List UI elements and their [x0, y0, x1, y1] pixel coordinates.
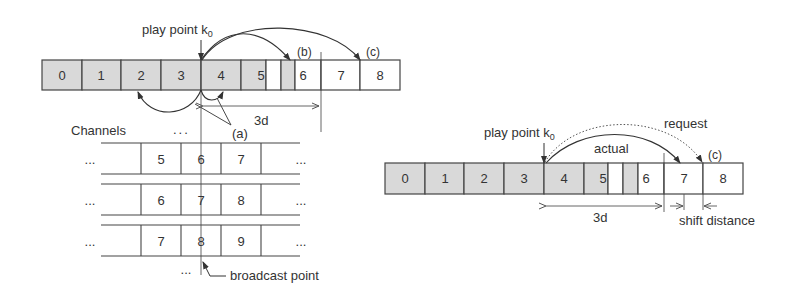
svg-text:5: 5 — [157, 152, 164, 167]
svg-text:2: 2 — [480, 171, 487, 186]
svg-text:3: 3 — [520, 171, 527, 186]
segment-6-partial — [281, 60, 295, 90]
label-a: (a) — [232, 126, 248, 141]
broadcast-point-label: broadcast point — [230, 268, 319, 283]
segment-gap — [266, 60, 281, 90]
arc-a-back — [138, 90, 201, 112]
svg-text:7: 7 — [237, 152, 244, 167]
svg-text:...: ... — [296, 152, 307, 167]
svg-text:8: 8 — [719, 171, 726, 186]
arc-c — [202, 28, 360, 60]
svg-text:6: 6 — [157, 193, 164, 208]
segment-gap — [608, 163, 623, 194]
svg-text:4: 4 — [560, 171, 567, 186]
svg-text:7: 7 — [197, 193, 204, 208]
segment-6-partial — [623, 163, 638, 194]
svg-text:6: 6 — [197, 152, 204, 167]
svg-text:...: ... — [181, 262, 192, 277]
right-label-c: (c) — [708, 148, 722, 162]
svg-text:8: 8 — [376, 68, 383, 83]
broadcast-point-arrow — [203, 262, 226, 276]
svg-text:7: 7 — [680, 171, 687, 186]
svg-text:5: 5 — [599, 171, 606, 186]
svg-text:1: 1 — [97, 68, 104, 83]
svg-text:...: ... — [85, 152, 96, 167]
channels-top-ellipsis: ... — [173, 122, 190, 137]
channels-label: Channels — [71, 123, 126, 138]
svg-text:3: 3 — [177, 68, 184, 83]
svg-text:9: 9 — [237, 234, 244, 249]
request-label: request — [664, 116, 708, 131]
svg-text:0: 0 — [401, 171, 408, 186]
svg-text:...: ... — [85, 193, 96, 208]
arc-a-forward — [201, 90, 223, 100]
actual-label: actual — [594, 141, 629, 156]
svg-text:...: ... — [296, 193, 307, 208]
svg-text:1: 1 — [441, 171, 448, 186]
svg-text:7: 7 — [157, 234, 164, 249]
svg-text:...: ... — [296, 234, 307, 249]
right-3d-label: 3d — [593, 210, 607, 225]
label-b: (b) — [297, 45, 312, 59]
svg-text:5: 5 — [257, 68, 264, 83]
svg-text:2: 2 — [137, 68, 144, 83]
svg-text:0: 0 — [58, 68, 65, 83]
right-play-point-label: play point k0 — [484, 125, 555, 142]
left-3d-label: 3d — [254, 113, 268, 128]
svg-text:6: 6 — [299, 68, 306, 83]
svg-text:...: ... — [85, 234, 96, 249]
left-play-point-label: play point k0 — [142, 22, 213, 39]
svg-text:8: 8 — [197, 234, 204, 249]
shift-distance-label: shift distance — [679, 213, 755, 228]
svg-text:6: 6 — [642, 171, 649, 186]
diagram-canvas: 0 1 2 3 4 5 6 7 8 play point k0 (b) (c) … — [0, 0, 799, 300]
svg-text:7: 7 — [337, 68, 344, 83]
left-diagram: 0 1 2 3 4 5 6 7 8 play point k0 (b) (c) … — [42, 22, 400, 283]
svg-text:4: 4 — [217, 68, 224, 83]
right-diagram: 0 1 2 3 4 5 6 7 8 play point k0 request … — [385, 116, 755, 228]
label-c: (c) — [366, 45, 380, 59]
svg-text:8: 8 — [237, 193, 244, 208]
